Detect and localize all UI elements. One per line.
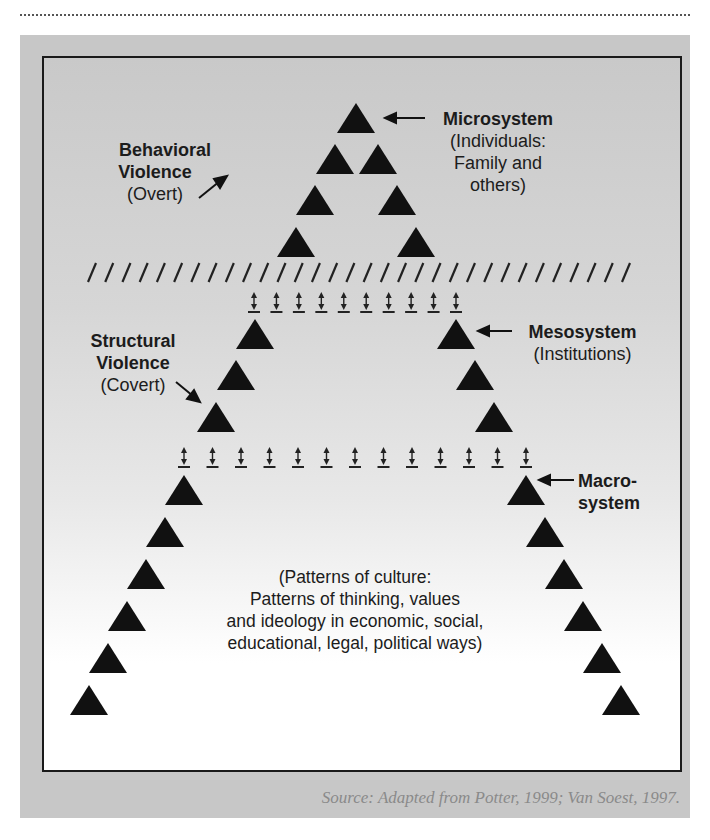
triangle-icon [277,227,315,257]
double-arrow-icon [292,447,304,467]
triangle-icon [456,360,494,390]
slash-mark [553,263,561,282]
slash-mark [329,263,337,282]
mesosystem-sub: (Institutions) [515,343,650,365]
slash-mark [450,263,458,282]
triangle-icon [564,601,602,631]
double-arrow-icon [264,447,276,467]
slash-mark [398,263,406,282]
structural-violence-label: Structural Violence (Covert) [78,330,188,396]
structural-sub: (Covert) [78,374,188,396]
slash-mark [243,263,251,282]
slash-mark [570,263,578,282]
slash-mark [467,263,475,282]
double-arrow-icon [406,447,418,467]
triangle-icon [475,402,513,432]
double-arrow-icon [178,447,190,467]
triangle-icon [89,643,127,673]
triangle-icon [70,685,108,715]
slash-mark [174,263,182,282]
mesosystem-label: Mesosystem (Institutions) [515,321,650,365]
arrowhead-icon [539,475,550,485]
culture-description: (Patterns of culture: Patterns of thinki… [200,566,510,654]
double-arrow-icon [463,447,475,467]
macrosystem-title: system [578,492,648,514]
double-arrow-icon [435,447,447,467]
microsystem-line: others) [428,174,568,196]
triangle-icon [165,475,203,505]
slash-mark [536,263,544,282]
double-arrow-icon [450,292,462,312]
triangle-icon [146,517,184,547]
double-arrow-icon [315,292,327,312]
behavioral-sub: (Overt) [100,183,210,205]
source-citation: Source: Adapted from Potter, 1999; Van S… [322,788,680,808]
lower-double-arrows [178,447,532,467]
slash-mark [105,263,113,282]
microsystem-label: Microsystem (Individuals: Family and oth… [428,108,568,196]
slash-mark [519,263,527,282]
arrowhead-icon [478,326,489,336]
double-arrow-icon [378,447,390,467]
triangle-icon [378,185,416,215]
microsystem-title: Microsystem [428,108,568,130]
slash-mark [346,263,354,282]
double-arrow-icon [207,447,219,467]
triangle-icon [526,517,564,547]
double-arrow-icon [428,292,440,312]
behavioral-title: Behavioral [100,139,230,161]
double-arrow-icon [492,447,504,467]
triangle-icon [359,144,397,174]
culture-line: and ideology in economic, social, [200,610,510,632]
slash-mark [381,263,389,282]
slash-mark [588,263,596,282]
triangle-icon [197,402,235,432]
microsystem-line: (Individuals: [428,130,568,152]
slash-mark [605,263,613,282]
arrowhead-icon [385,113,396,123]
double-arrow-icon [360,292,372,312]
double-arrow-icon [235,447,247,467]
triangle-icon [108,601,146,631]
triangle-icon [316,144,354,174]
slash-mark [122,263,130,282]
slash-mark [157,263,165,282]
triangle-icon [583,643,621,673]
slash-mark [415,263,423,282]
double-arrow-icon [321,447,333,467]
slash-mark [88,263,96,282]
structural-title: Structural [78,330,188,352]
slash-mark [209,263,217,282]
slash-mark [501,263,509,282]
culture-line: Patterns of thinking, values [200,588,510,610]
structural-title: Violence [78,352,188,374]
triangle-icon [397,227,435,257]
triangle-icon [545,559,583,589]
triangle-icon [217,360,255,390]
triangle-icon [337,103,375,133]
double-arrow-icon [270,292,282,312]
slash-mark [140,263,148,282]
slash-mark [312,263,320,282]
slash-mark [433,263,441,282]
slash-mark [622,263,630,282]
triangle-icon [602,685,640,715]
behavioral-title: Violence [100,161,210,183]
slash-mark [484,263,492,282]
double-arrow-icon [338,292,350,312]
ecological-violence-diagram [0,0,710,840]
triangle-icon [236,319,274,349]
slash-mark [191,263,199,282]
slash-mark [277,263,285,282]
macrosystem-label: Macro- system [578,470,648,514]
slash-divider [88,263,630,282]
triangle-icon [127,559,165,589]
double-arrow-icon [383,292,395,312]
slash-mark [260,263,268,282]
slash-mark [295,263,303,282]
macrosystem-title: Macro- [578,470,648,492]
double-arrow-icon [293,292,305,312]
double-arrow-icon [405,292,417,312]
slash-mark [364,263,372,282]
upper-double-arrows [248,292,462,312]
